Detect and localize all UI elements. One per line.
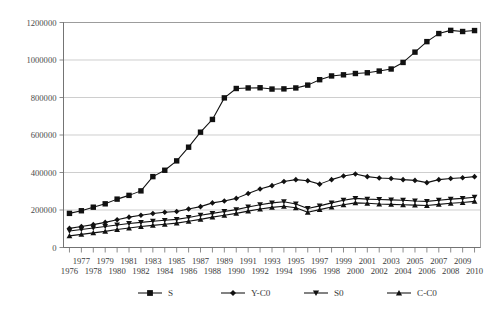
data-point-marker-square — [317, 77, 322, 82]
data-point-marker-square — [114, 196, 119, 201]
x-tick-label: 1991 — [240, 256, 257, 266]
data-point-marker-square — [269, 86, 274, 91]
line-chart: 020000040000060000080000010000001200000 … — [0, 0, 504, 317]
data-point-marker-square — [138, 188, 143, 193]
x-tick-label: 1993 — [263, 256, 280, 266]
chart-canvas: 020000040000060000080000010000001200000 … — [0, 0, 504, 317]
data-point-marker-square — [341, 72, 346, 77]
x-tick-label: 1987 — [192, 256, 210, 266]
x-tick-label: 2009 — [454, 256, 471, 266]
x-tick-label: 1983 — [144, 256, 161, 266]
data-point-marker-square — [186, 144, 191, 149]
data-point-marker-square — [388, 66, 393, 71]
x-tick-label: 1989 — [216, 256, 233, 266]
x-tick-label: 2001 — [359, 256, 376, 266]
x-tick-label: 1994 — [275, 266, 293, 276]
y-tick-label: 800000 — [31, 93, 57, 103]
x-tick-label: 1979 — [97, 256, 114, 266]
data-point-marker-square — [436, 31, 441, 36]
x-tick-label: 2004 — [394, 266, 412, 276]
y-tick-label: 600000 — [31, 130, 57, 140]
data-point-marker-square — [353, 71, 358, 76]
x-tick-label: 1999 — [335, 256, 352, 266]
data-point-marker-square — [174, 158, 179, 163]
x-tick-label: 1980 — [109, 266, 126, 276]
data-point-marker-square — [234, 86, 239, 91]
data-point-marker-square — [162, 168, 167, 173]
x-tick-label: 1976 — [61, 266, 79, 276]
x-tick-label: 1998 — [323, 266, 340, 276]
data-point-marker-square — [257, 85, 262, 90]
x-tick-label: 1986 — [180, 266, 198, 276]
data-point-marker-square — [412, 49, 417, 54]
x-tick-label: 1982 — [132, 266, 149, 276]
data-point-marker-square — [293, 85, 298, 90]
x-tick-label: 2002 — [371, 266, 388, 276]
y-tick-label: 1000000 — [26, 55, 56, 65]
x-tick-label: 1988 — [204, 266, 221, 276]
data-point-marker-square — [472, 28, 477, 33]
x-tick-label: 2008 — [442, 266, 459, 276]
data-point-marker-square — [377, 68, 382, 73]
data-point-marker-square — [448, 28, 453, 33]
legend-label: Y-C0 — [251, 288, 271, 298]
data-point-marker-square — [79, 208, 84, 213]
data-point-marker-square — [329, 73, 334, 78]
x-tick-label: 1981 — [120, 256, 137, 266]
data-point-marker-square — [67, 211, 72, 216]
y-tick-label: 0 — [52, 243, 56, 253]
y-tick-label: 200000 — [31, 205, 57, 215]
legend-label: C-C0 — [417, 288, 437, 298]
legend-label: S0 — [334, 288, 344, 298]
x-tick-label: 1995 — [287, 256, 304, 266]
data-point-marker-square — [103, 201, 108, 206]
legend-label: S — [168, 288, 173, 298]
y-tick-label: 400000 — [31, 168, 57, 178]
x-tick-label: 1990 — [228, 266, 245, 276]
y-tick-label: 1200000 — [26, 18, 56, 28]
x-tick-label: 2005 — [406, 256, 423, 266]
x-tick-label: 1984 — [156, 266, 174, 276]
data-point-marker-square — [305, 82, 310, 87]
x-tick-label: 1977 — [73, 256, 91, 266]
data-point-marker-square — [198, 129, 203, 134]
data-point-marker-square — [460, 29, 465, 34]
x-tick-label: 1985 — [168, 256, 185, 266]
data-point-marker-square — [210, 117, 215, 122]
data-point-marker-square — [281, 86, 286, 91]
x-tick-label: 2006 — [418, 266, 436, 276]
data-point-marker-square — [222, 95, 227, 100]
data-point-marker-square — [126, 193, 131, 198]
data-point-marker-square — [424, 39, 429, 44]
data-point-marker-square — [150, 174, 155, 179]
data-point-marker-square — [365, 70, 370, 75]
x-tick-label: 2007 — [430, 256, 448, 266]
x-tick-label: 1996 — [299, 266, 317, 276]
data-point-marker-square — [245, 85, 250, 90]
x-tick-label: 1997 — [311, 256, 329, 266]
x-tick-label: 2000 — [347, 266, 364, 276]
x-tick-label: 2003 — [383, 256, 400, 266]
data-point-marker-square — [91, 204, 96, 209]
x-tick-label: 1992 — [251, 266, 268, 276]
data-point-marker-square — [400, 60, 405, 65]
data-point-marker-square — [147, 290, 153, 296]
x-tick-label: 2010 — [466, 266, 483, 276]
x-tick-label: 1978 — [85, 266, 102, 276]
